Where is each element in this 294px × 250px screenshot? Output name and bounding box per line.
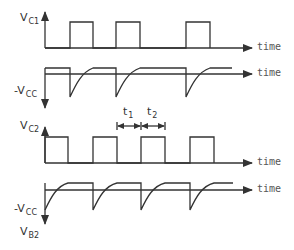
vc1-label: VC1	[20, 12, 39, 23]
vb1-vcc-label: -VCC	[14, 85, 37, 96]
waveform-diagram	[0, 0, 294, 250]
vb2-label: VB2	[20, 226, 39, 237]
vb1-waveform	[45, 68, 252, 108]
vb2-vcc-label: -VCC	[14, 203, 37, 214]
vc1-trace	[45, 22, 210, 48]
vc2-label: VC2	[20, 120, 39, 131]
vb2-time-label: time	[257, 184, 281, 194]
vb1-trace	[45, 68, 232, 97]
vc1-waveform	[45, 12, 252, 48]
vb2-waveform	[45, 183, 252, 224]
t1-label: t1	[123, 106, 133, 117]
vc2-waveform	[45, 127, 252, 163]
interval-markers	[117, 122, 165, 130]
vb1-time-label: time	[257, 68, 281, 78]
vc1-time-label: time	[257, 42, 281, 52]
vc2-time-label: time	[257, 157, 281, 167]
vb2-trace	[45, 183, 233, 210]
vc2-trace	[45, 137, 214, 163]
t2-label: t2	[147, 106, 157, 117]
